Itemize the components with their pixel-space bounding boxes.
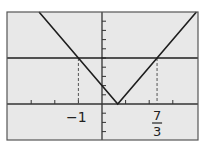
graph: −1 7 3 [0,0,207,151]
tick-label-fraction-denominator: 3 [153,124,161,139]
tick-label-fraction-numerator: 7 [153,108,161,123]
tick-label-neg-one: −1 [66,109,87,125]
